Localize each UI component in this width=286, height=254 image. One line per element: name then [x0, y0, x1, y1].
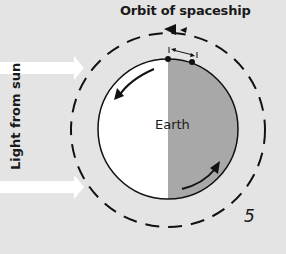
displacement-arrowhead-left [171, 48, 176, 52]
spaceship-icon [164, 24, 176, 35]
sunlight-arrow-bottom [0, 175, 84, 199]
sunlight-label: Light from sun [8, 63, 23, 170]
figure-number: 5 [244, 206, 255, 226]
displacement-arrowhead-right [190, 53, 195, 57]
displacement-line [173, 50, 193, 55]
earth-label: Earth [155, 117, 190, 132]
ground-point-a [165, 56, 171, 62]
orbit-direction-arrowhead [180, 27, 187, 33]
ground-point-b [189, 59, 195, 65]
diagram-title: Orbit of spaceship [120, 3, 251, 18]
